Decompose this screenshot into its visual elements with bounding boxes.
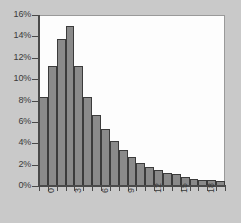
x-axis-tick-label: 12 bbox=[154, 183, 163, 193]
y-axis-tick-label: 16% bbox=[0, 10, 31, 19]
y-axis-tick-label-text: 16% bbox=[1, 10, 31, 19]
bar bbox=[83, 97, 92, 186]
y-axis-tick-label-text: 14% bbox=[1, 31, 31, 40]
y-axis-tick bbox=[32, 58, 40, 59]
x-axis-tick bbox=[136, 186, 137, 191]
y-axis-tick bbox=[32, 15, 40, 16]
y-axis-tick-label: 6% bbox=[0, 117, 31, 126]
y-axis-tick-label: 2% bbox=[0, 160, 31, 169]
y-axis-tick-label: 14% bbox=[0, 31, 31, 40]
y-axis-tick-label: 0% bbox=[0, 181, 31, 190]
bar bbox=[74, 66, 83, 186]
y-axis-tick-label-text: 6% bbox=[1, 117, 31, 126]
x-axis-tick-label: 18 bbox=[207, 183, 216, 193]
x-axis-tick bbox=[172, 186, 173, 191]
bar bbox=[136, 163, 145, 187]
x-axis-tick bbox=[145, 186, 146, 191]
y-axis-tick-label-text: 2% bbox=[1, 160, 31, 169]
y-axis-tick-label: 10% bbox=[0, 74, 31, 83]
bar bbox=[101, 129, 110, 186]
histogram-chart: 0%2%4%6%8%10%12%14%16% 0369121518 bbox=[0, 0, 241, 223]
bar bbox=[92, 115, 101, 186]
x-axis-tick-label: 3 bbox=[74, 188, 83, 193]
bar bbox=[119, 150, 128, 186]
y-axis-tick-label-text: 4% bbox=[1, 138, 31, 147]
x-axis-tick bbox=[39, 186, 40, 191]
bar bbox=[128, 157, 137, 186]
x-axis-tick bbox=[216, 186, 217, 191]
y-axis-tick-label-text: 0% bbox=[1, 181, 31, 190]
y-axis-tick-label-text: 8% bbox=[1, 96, 31, 105]
y-axis-tick bbox=[32, 143, 40, 144]
y-axis-tick bbox=[32, 36, 40, 37]
x-axis-tick bbox=[119, 186, 120, 191]
y-axis-tick bbox=[32, 165, 40, 166]
y-axis-tick bbox=[32, 79, 40, 80]
x-axis-tick bbox=[83, 186, 84, 191]
bar bbox=[66, 26, 75, 186]
y-axis-tick-label: 12% bbox=[0, 53, 31, 62]
y-axis-tick bbox=[32, 122, 40, 123]
bar bbox=[57, 39, 66, 186]
x-axis-tick bbox=[225, 186, 226, 191]
bar bbox=[110, 141, 119, 186]
bars-layer bbox=[39, 15, 225, 186]
x-axis-tick bbox=[190, 186, 191, 191]
y-axis-tick bbox=[32, 101, 40, 102]
x-axis-tick-label: 0 bbox=[47, 188, 56, 193]
y-axis-tick-label-text: 12% bbox=[1, 53, 31, 62]
x-axis-tick-label: 6 bbox=[101, 188, 110, 193]
bar bbox=[48, 66, 57, 186]
x-axis-tick bbox=[198, 186, 199, 191]
x-axis-tick-label: 9 bbox=[127, 188, 136, 193]
y-axis-tick-label-text: 10% bbox=[1, 74, 31, 83]
x-axis-tick-label: 15 bbox=[180, 183, 189, 193]
x-axis-tick bbox=[57, 186, 58, 191]
y-axis-tick-label: 8% bbox=[0, 96, 31, 105]
bar bbox=[39, 97, 48, 186]
y-axis-tick-label: 4% bbox=[0, 138, 31, 147]
x-axis-tick bbox=[163, 186, 164, 191]
x-axis-tick bbox=[66, 186, 67, 191]
x-axis-tick bbox=[92, 186, 93, 191]
